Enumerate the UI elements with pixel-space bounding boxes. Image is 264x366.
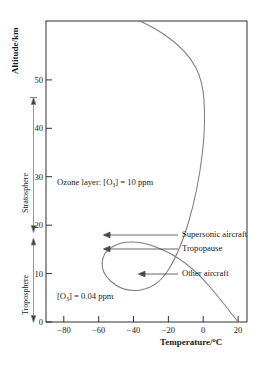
- x-tick-label--20: −20: [156, 326, 180, 335]
- annotation-ozone-layer: Ozone layer: [O3] = 10 ppm: [57, 178, 153, 187]
- layer-label-stratosphere: Stratosphere: [22, 173, 30, 213]
- x-tick-label--80: −80: [52, 326, 76, 335]
- y-tick-label-0: 0: [24, 318, 43, 327]
- x-tick-label-20: 20: [226, 326, 250, 335]
- ozone-temperature-altitude-chart: Altitude/km Temperature/oC −80 −60 −40 −…: [0, 0, 264, 366]
- x-tick-label--40: −40: [122, 326, 146, 335]
- y-axis-ticks: [46, 80, 52, 322]
- annotation-troposphere-ozone: [O3] = 0.04 ppm: [57, 292, 113, 301]
- x-axis-ticks: [64, 316, 238, 322]
- callout-label-supersonic-aircraft: Supersonic aircraft: [182, 230, 247, 239]
- layer-label-troposphere: Troposphere: [22, 275, 30, 315]
- y-tick-label-50: 50: [24, 76, 43, 85]
- y-tick-label-20: 20: [24, 221, 43, 230]
- y-axis-title: Altitude/km: [11, 27, 20, 74]
- x-tick-label--60: −60: [87, 326, 111, 335]
- callout-leaders: [104, 232, 179, 277]
- y-tick-label-40: 40: [24, 124, 43, 133]
- callout-label-other-aircraft: Other aircraft: [182, 269, 229, 278]
- x-axis-title-text: Temperature/oC: [160, 337, 222, 347]
- x-axis-title: Temperature/oC: [160, 338, 222, 347]
- callout-label-tropopause: Tropopause: [182, 244, 222, 253]
- x-tick-label-0: 0: [191, 326, 215, 335]
